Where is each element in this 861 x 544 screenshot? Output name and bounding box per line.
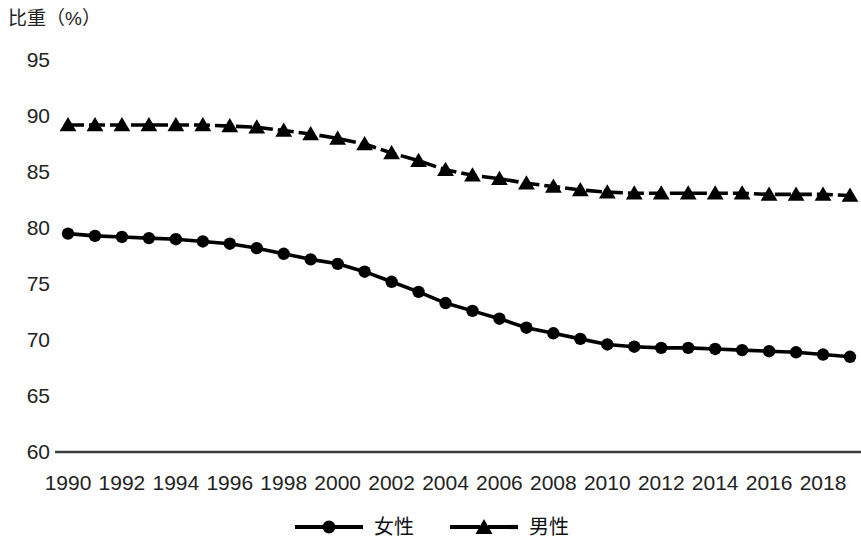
legend-label: 男性 [529, 517, 569, 537]
legend-label: 女性 [374, 517, 414, 537]
circle-marker-icon [736, 344, 748, 356]
circle-marker-icon [358, 265, 370, 277]
circle-marker-icon [628, 341, 640, 353]
circle-marker-icon [601, 338, 613, 350]
circle-marker-icon [116, 231, 128, 243]
circle-marker-icon [520, 321, 532, 333]
circle-marker-icon [817, 348, 829, 360]
triangle-marker-icon [448, 516, 520, 538]
line-chart: 比重（%） 9590858075706560 19901992199419961… [0, 0, 861, 544]
circle-marker-icon [62, 227, 74, 239]
circle-marker-icon [790, 346, 802, 358]
circle-marker-icon [844, 351, 856, 363]
circle-marker-icon [709, 343, 721, 355]
circle-marker-icon [143, 232, 155, 244]
circle-marker-icon [331, 258, 343, 270]
circle-marker-icon [251, 242, 263, 254]
circle-marker-icon [655, 342, 667, 354]
circle-marker-icon [293, 516, 365, 538]
circle-marker-icon [412, 286, 424, 298]
circle-marker-icon [304, 253, 316, 265]
circle-marker-icon [197, 235, 209, 247]
chart-legend: 女性男性 [0, 516, 861, 538]
series-male [60, 117, 859, 202]
circle-marker-icon [466, 305, 478, 317]
circle-marker-icon [547, 327, 559, 339]
triangle-marker-icon [356, 136, 373, 150]
legend-entry[interactable]: 女性 [293, 516, 414, 538]
legend-entry[interactable]: 男性 [448, 516, 569, 538]
circle-marker-icon [574, 333, 586, 345]
circle-marker-icon [278, 248, 290, 260]
plot-area [0, 0, 861, 544]
circle-marker-icon [493, 313, 505, 325]
circle-marker-icon [439, 297, 451, 309]
series-line [68, 125, 850, 196]
circle-marker-icon [763, 345, 775, 357]
circle-marker-icon [170, 233, 182, 245]
series-line [68, 234, 850, 357]
circle-marker-icon [89, 230, 101, 242]
triangle-marker-icon [437, 162, 454, 176]
series-female [62, 227, 856, 363]
circle-marker-icon [385, 276, 397, 288]
circle-marker-icon [682, 342, 694, 354]
circle-marker-icon [224, 237, 236, 249]
